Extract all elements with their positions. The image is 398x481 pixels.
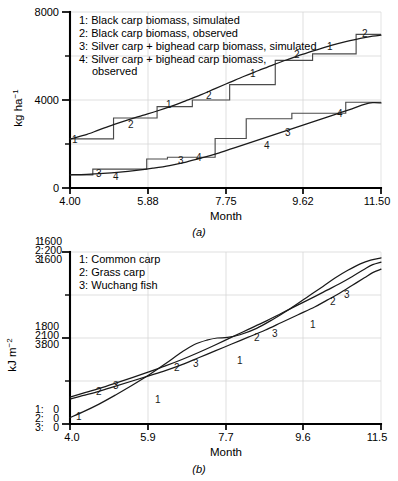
legend-a-item-4-cont: observed	[92, 65, 137, 77]
panel-a-ylabel: kg ha−1	[11, 89, 24, 127]
ytick-b-val-3-2: 1600	[39, 253, 63, 265]
tag-a-4d: 4	[337, 108, 343, 119]
tag-b-1b: 1	[155, 394, 161, 405]
panel-b-legend: 1: Common carp 2: Grass carp 3: Wuchang …	[76, 252, 236, 294]
tag-b-3c: 3	[272, 328, 278, 339]
tag-b-3a: 3	[113, 380, 119, 391]
panel-b-ytick-group-bottom: 1: 2: 3: 0 0 0	[35, 403, 59, 433]
panel-a-x-ticks: 4.00 5.88 7.75 9.62 11.50	[59, 188, 390, 207]
tag-a-2b: 2	[206, 90, 212, 101]
tag-b-1d: 1	[310, 319, 316, 330]
tag-a-3a: 3	[96, 168, 102, 179]
ytick-b-val-3-1: 800	[41, 338, 59, 350]
panel-b-xtick-0: 4.0	[64, 431, 79, 443]
panel-b-ylabel: kJ m−2	[5, 338, 18, 372]
svg-text:kg ha−1: kg ha−1	[11, 89, 24, 127]
panel-a-ytick-0: 0	[53, 182, 59, 194]
tag-b-3d: 3	[344, 289, 350, 300]
panel-b-xtick-1: 5.9	[140, 431, 155, 443]
tag-a-2a: 2	[128, 119, 134, 130]
panel-b-xlabel: Month	[210, 446, 242, 458]
tag-a-1b: 1	[166, 99, 172, 110]
legend-a-item-2: 2: Black carp biomass, observed	[79, 27, 238, 39]
panel-b-caption: (b)	[192, 463, 206, 475]
panel-b-series-tags: 1 2 3 1 2 3 1 2 3 1 2 3	[76, 289, 350, 422]
legend-b-item-3: 3: Wuchang fish	[79, 279, 158, 291]
panel-b-ytick-group-middle: 1: 2: 3: 800 100 800	[35, 320, 59, 350]
panel-a-xtick-1: 5.88	[137, 195, 158, 207]
tag-a-3b: 3	[178, 155, 184, 166]
panel-a-xtick-0: 4.00	[59, 195, 80, 207]
tag-b-2a: 2	[96, 386, 102, 397]
legend-b-item-1: 1: Common carp	[79, 253, 160, 265]
legend-a-item-4: 4: Silver carp + bighead carp biomass,	[79, 53, 266, 65]
panel-a-svg: kg ha−1	[0, 0, 398, 240]
panel-b-ytick-group-top: 1: 2: 3: 1600 200 1600	[35, 235, 62, 265]
panel-a-ytick-8000: 8000	[35, 6, 59, 18]
chart-panel-a: kg ha−1	[0, 0, 398, 240]
panel-a-xtick-3: 9.62	[292, 195, 313, 207]
tag-a-4b: 4	[196, 152, 202, 163]
figure-container: kg ha−1	[0, 0, 398, 481]
tag-b-1a: 1	[76, 411, 82, 422]
tag-b-2b: 2	[174, 362, 180, 373]
panel-b-x-ticks: 4.0 5.9 7.7 9.6 11.5	[64, 424, 387, 443]
panel-b-svg-main: kJ m−2	[0, 230, 398, 481]
tag-a-1a: 1	[72, 134, 78, 145]
tag-b-2c: 2	[254, 332, 260, 343]
svg-text:kJ m−2: kJ m−2	[5, 338, 18, 372]
tag-a-3c: 3	[285, 127, 291, 138]
tag-b-3b: 3	[193, 358, 199, 369]
panel-a-ytick-4000: 4000	[35, 94, 59, 106]
legend-a-item-3: 3: Silver carp + bighead carp biomass, s…	[79, 40, 317, 52]
panel-b-xtick-4: 11.5	[367, 431, 388, 443]
panel-a-series-4-path	[70, 102, 381, 175]
panel-b-y-ticks	[62, 252, 70, 424]
tag-b-2d: 2	[330, 296, 336, 307]
legend-a-item-1: 1: Black carp biomass, simulated	[79, 14, 240, 26]
ytick-b-val-3-0: 0	[53, 421, 59, 433]
tag-a-4a: 4	[113, 171, 119, 182]
panel-b-xtick-3: 9.6	[295, 431, 310, 443]
chart-panel-b: kJ m−2	[0, 230, 398, 481]
panel-b-xtick-2: 7.7	[218, 431, 233, 443]
panel-a-xtick-4: 11.50	[364, 195, 391, 207]
panel-a-legend: 1: Black carp biomass, simulated 2: Blac…	[76, 14, 366, 77]
legend-b-item-2: 2: Grass carp	[79, 266, 145, 278]
tag-a-4c: 4	[264, 140, 270, 151]
panel-a-xlabel: Month	[210, 210, 242, 222]
panel-a-y-ticks: 0 4000 8000	[35, 6, 70, 194]
tag-b-1c: 1	[237, 355, 243, 366]
ytick-b-pre-3-0: 3:	[35, 421, 44, 433]
panel-a-xtick-2: 7.75	[215, 195, 236, 207]
